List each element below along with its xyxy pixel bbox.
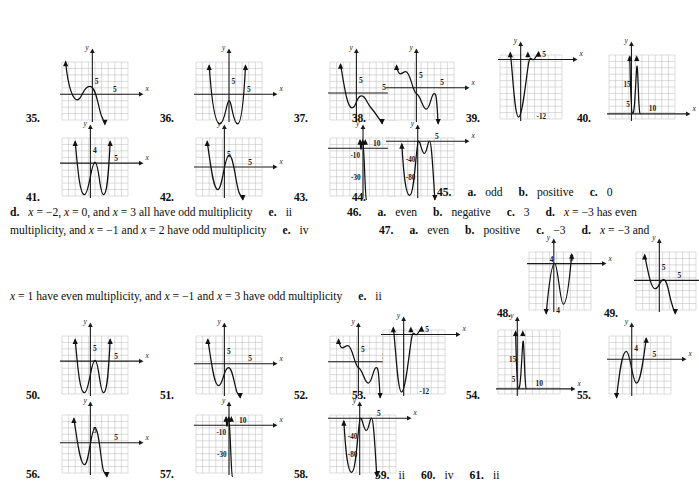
- svg-text:5: 5: [248, 158, 252, 167]
- svg-text:5: 5: [425, 325, 429, 334]
- svg-text:x: x: [279, 415, 284, 424]
- svg-text:5: 5: [662, 263, 666, 272]
- answer-part-label: 59.: [375, 469, 390, 482]
- svg-text:y: y: [348, 43, 353, 52]
- svg-text:x: x: [462, 324, 467, 333]
- graph-plot: xy544: [529, 252, 591, 310]
- svg-text:x: x: [279, 84, 284, 93]
- svg-text:5: 5: [232, 77, 236, 86]
- svg-text:4: 4: [634, 344, 638, 353]
- figure-number: 43.: [294, 191, 308, 203]
- svg-text:x: x: [688, 349, 693, 358]
- answer-row: 45.a.oddb.positivec.0: [437, 186, 613, 199]
- svg-text:10: 10: [536, 379, 544, 388]
- answer-part-value: iv: [300, 224, 309, 237]
- answer-part-label: a.: [410, 224, 419, 237]
- svg-text:x: x: [608, 254, 613, 263]
- answer-part-value: even: [427, 224, 449, 237]
- svg-text:y: y: [408, 43, 413, 52]
- graph-plot: xy5-12: [383, 330, 445, 394]
- svg-text:5: 5: [93, 344, 97, 353]
- svg-text:-10: -10: [216, 429, 226, 437]
- svg-text:x: x: [279, 157, 284, 166]
- answer-part-value: ii: [286, 206, 292, 219]
- svg-text:y: y: [624, 317, 629, 326]
- svg-text:5: 5: [248, 354, 252, 363]
- svg-text:x: x: [279, 354, 284, 363]
- svg-text:-12: -12: [420, 388, 430, 396]
- svg-text:y: y: [623, 36, 628, 45]
- graph-plot: xy55: [62, 336, 128, 394]
- answer-row: x = 1 have even multiplicity, and x = −1…: [10, 290, 382, 303]
- svg-text:5: 5: [247, 85, 251, 94]
- answer-part-value: x = −2, x = 0, and x = 3 all have odd mu…: [28, 206, 252, 219]
- answer-part-label: c.: [507, 206, 515, 219]
- graph-plot: xy5-12: [500, 55, 562, 119]
- figure-number: 41.: [26, 191, 40, 203]
- figure-number: 52.: [294, 389, 308, 401]
- answer-part-label: a.: [378, 206, 387, 219]
- graph-plot: xy54: [609, 336, 671, 394]
- answer-part-label: c.: [590, 186, 598, 199]
- svg-text:5: 5: [626, 101, 630, 109]
- answer-part-value: x = 1 have even multiplicity, and x = −1…: [10, 290, 342, 303]
- graph-plot: xy55: [636, 252, 696, 310]
- answer-part-value: x = −3 and: [600, 224, 649, 237]
- answer-part-label: d.: [10, 206, 19, 219]
- svg-text:y: y: [509, 311, 514, 320]
- graph-plot: xy55: [388, 62, 454, 120]
- figure-number: 49.: [604, 307, 618, 319]
- svg-text:4: 4: [550, 256, 554, 264]
- figure-number: 51.: [160, 389, 174, 401]
- figure-number: 54.: [466, 389, 480, 401]
- svg-text:5: 5: [542, 50, 546, 59]
- answer-part-value: 3: [524, 206, 530, 219]
- svg-text:5: 5: [361, 345, 365, 354]
- answer-part-label: e.: [283, 224, 291, 237]
- answer-part-label: 61.: [469, 469, 484, 482]
- answer-part-value: −3: [553, 224, 565, 237]
- answer-part-value: multiplicity, and x = −1 and x = 2 have …: [10, 224, 267, 237]
- answer-part-label: a.: [468, 186, 477, 199]
- answer-part-label: b.: [519, 186, 528, 199]
- figure-number: 55.: [577, 389, 591, 401]
- graph-plot: xy55: [196, 336, 262, 394]
- figure-number: 42.: [160, 191, 174, 203]
- svg-text:y: y: [651, 233, 656, 242]
- answer-row: 59.ii60.iv61.ii: [375, 469, 499, 482]
- answer-part-label: 46.: [347, 206, 362, 219]
- answer-part-value: odd: [485, 186, 502, 199]
- answer-part-value: x = −3 has even: [564, 206, 637, 219]
- svg-text:5: 5: [114, 433, 118, 442]
- answer-part-value: positive: [537, 186, 574, 199]
- svg-text:x: x: [579, 49, 584, 58]
- svg-text:5: 5: [512, 376, 516, 384]
- answer-part-label: d.: [546, 206, 555, 219]
- answer-part-value: even: [395, 206, 417, 219]
- svg-text:y: y: [352, 396, 357, 405]
- answer-row: 47.a.evenb.positivec.−3d.x = −3 and: [379, 224, 649, 237]
- svg-text:y: y: [355, 119, 360, 128]
- figure-number: 35.: [26, 112, 40, 124]
- svg-text:x: x: [145, 351, 150, 360]
- graph-plot: xy55: [196, 62, 262, 120]
- svg-text:5: 5: [227, 347, 231, 356]
- answer-part-value: ii: [493, 469, 499, 482]
- svg-text:4: 4: [556, 306, 560, 315]
- svg-text:x: x: [145, 433, 150, 442]
- svg-text:5: 5: [95, 77, 99, 86]
- svg-text:15: 15: [509, 356, 517, 364]
- svg-text:y: y: [82, 396, 87, 405]
- svg-text:x: x: [692, 104, 697, 113]
- figure-number: 44.: [352, 191, 366, 203]
- svg-text:10: 10: [649, 104, 657, 113]
- svg-text:x: x: [471, 78, 476, 87]
- answer-part-label: 45.: [437, 186, 452, 199]
- svg-text:-40: -40: [348, 433, 358, 441]
- graph-plot: xy55: [196, 138, 262, 196]
- svg-text:5: 5: [435, 132, 439, 141]
- answer-row: multiplicity, and x = −1 and x = 2 have …: [10, 224, 309, 237]
- svg-text:y: y: [221, 43, 226, 52]
- figure-number: 36.: [160, 112, 174, 124]
- svg-text:y: y: [84, 43, 89, 52]
